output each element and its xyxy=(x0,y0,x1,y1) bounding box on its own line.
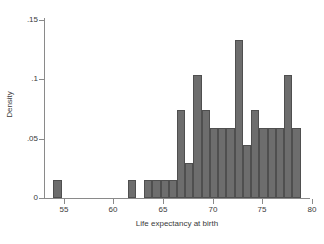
histogram-bar xyxy=(193,75,201,198)
histogram-bar xyxy=(226,128,234,198)
y-tick-label: .15 xyxy=(0,16,38,24)
histogram-figure: 0.05.1.15 556065707580 Life expectancy a… xyxy=(0,0,324,244)
histogram-bar xyxy=(259,128,267,198)
histogram-bar xyxy=(185,163,193,198)
plot-frame: 0.05.1.15 556065707580 Life expectancy a… xyxy=(0,0,324,244)
y-axis-line xyxy=(44,18,45,199)
x-tick-label: 80 xyxy=(300,206,324,214)
x-tick-mark xyxy=(163,199,164,204)
histogram-bar xyxy=(53,180,61,198)
x-axis-title: Life expectancy at birth xyxy=(44,219,310,228)
x-tick-label: 60 xyxy=(101,206,125,214)
x-tick-mark xyxy=(113,199,114,204)
x-tick-label: 75 xyxy=(250,206,274,214)
histogram-bar xyxy=(276,128,284,198)
y-tick-label: 0 xyxy=(0,194,38,202)
x-tick-mark xyxy=(64,199,65,204)
x-tick-label: 70 xyxy=(201,206,225,214)
histogram-bar xyxy=(202,110,210,198)
y-tick-mark xyxy=(39,198,44,199)
histogram-bar xyxy=(161,180,169,198)
x-tick-label: 55 xyxy=(52,206,76,214)
plot-area xyxy=(44,20,310,198)
histogram-bar xyxy=(284,75,292,198)
histogram-bar xyxy=(152,180,160,198)
histogram-bar xyxy=(251,110,259,198)
histogram-bar xyxy=(144,180,152,198)
histogram-bar xyxy=(268,128,276,198)
y-tick-mark xyxy=(39,139,44,140)
x-tick-mark xyxy=(262,199,263,204)
y-tick-mark xyxy=(39,79,44,80)
histogram-bar xyxy=(218,128,226,198)
histogram-bar xyxy=(210,128,218,198)
y-tick-label: .05 xyxy=(0,135,38,143)
x-tick-label: 65 xyxy=(151,206,175,214)
histogram-bar xyxy=(235,40,243,198)
x-axis-line xyxy=(44,198,310,199)
y-tick-mark xyxy=(39,20,44,21)
histogram-bar xyxy=(292,128,300,198)
histogram-bar xyxy=(177,110,185,198)
y-axis-title: Density xyxy=(5,75,14,135)
histogram-bar xyxy=(128,180,136,198)
histogram-bar xyxy=(169,180,177,198)
histogram-bar xyxy=(243,145,251,198)
x-tick-mark xyxy=(312,199,313,204)
x-tick-mark xyxy=(213,199,214,204)
